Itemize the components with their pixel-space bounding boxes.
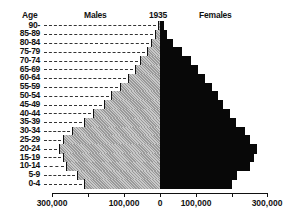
- guide-dash: [44, 78, 126, 79]
- x-tick: [88, 193, 89, 197]
- guide-dash: [44, 184, 82, 185]
- guide-dash: [44, 69, 133, 70]
- guide-dash: [44, 52, 145, 53]
- x-tick: [267, 193, 268, 197]
- guide-dash: [44, 105, 102, 106]
- female-bar: [160, 179, 232, 188]
- guide-dash: [44, 175, 75, 176]
- guide-dash: [44, 166, 64, 167]
- male-bar: [84, 179, 161, 188]
- females-label: Females: [199, 11, 232, 20]
- guide-dash: [44, 43, 149, 44]
- x-tick: [232, 193, 233, 197]
- age-axis-title: Age: [22, 11, 37, 20]
- guide-dash: [44, 87, 118, 88]
- guide-dash: [44, 140, 61, 141]
- guide-dash: [44, 113, 91, 114]
- x-tick: [124, 193, 125, 197]
- x-tick-label: 100,000: [181, 198, 212, 208]
- guide-dash: [44, 25, 156, 26]
- x-tick: [52, 193, 53, 197]
- males-label: Males: [84, 11, 107, 20]
- x-tick-label: 100,000: [109, 198, 140, 208]
- guide-dash: [44, 131, 70, 132]
- chart-title: 1935: [149, 11, 167, 20]
- x-tick: [160, 193, 161, 197]
- guide-dash: [44, 122, 82, 123]
- guide-dash: [44, 149, 57, 150]
- guide-dash: [44, 157, 61, 158]
- x-tick: [196, 193, 197, 197]
- x-tick-label: 0: [158, 198, 163, 208]
- x-tick-label: 300,000: [252, 198, 283, 208]
- guide-dash: [44, 61, 138, 62]
- guide-dash: [44, 96, 109, 97]
- guide-dash: [44, 34, 153, 35]
- x-tick-label: 300,000: [37, 198, 68, 208]
- age-group-label: 0-4: [2, 179, 40, 188]
